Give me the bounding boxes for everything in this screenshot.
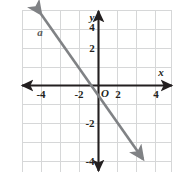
coordinate-plane-figure: x y O -4 -2 2 4 4 2 -2 -4 a xyxy=(0,0,181,182)
origin-label: O xyxy=(101,87,109,99)
y-tick-label-neg2: -2 xyxy=(85,117,95,129)
y-tick-label-pos4: 4 xyxy=(89,21,95,33)
x-tick-label-neg2: -2 xyxy=(74,88,84,100)
y-tick-label-neg4: -4 xyxy=(85,155,95,167)
x-tick-label-pos2: 2 xyxy=(115,88,121,100)
x-tick-label-pos4: 4 xyxy=(153,88,159,100)
line-label-group: a xyxy=(37,26,43,38)
line-label-a: a xyxy=(37,26,43,38)
graph-screenshot: x y O -4 -2 2 4 4 2 -2 -4 a xyxy=(0,0,181,182)
x-tick-label-neg4: -4 xyxy=(36,88,46,100)
x-axis-label: x xyxy=(157,66,164,78)
y-tick-label-pos2: 2 xyxy=(89,42,95,54)
